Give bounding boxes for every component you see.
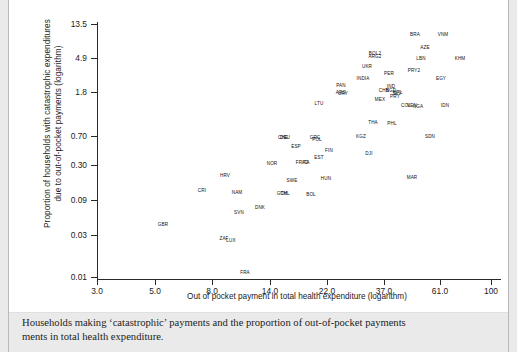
y-tick-label: 4.9: [47, 53, 87, 63]
data-point-label: DEU: [280, 135, 290, 140]
data-point-label: HUN: [321, 176, 331, 181]
data-point-label: FIN: [325, 148, 333, 153]
data-point-label: ITA: [302, 160, 309, 165]
data-point-label: DJI: [365, 151, 372, 156]
data-point-label: BOL: [306, 192, 316, 197]
data-point-label: MEX: [375, 97, 385, 102]
data-point-label: EST: [314, 155, 323, 160]
data-point-label: NAM: [232, 190, 243, 195]
data-point-label: PRY: [390, 94, 400, 99]
data-point-label: PER: [384, 71, 394, 76]
y-axis-title-line2: due to out-of-pocket payments (logarithm…: [53, 0, 64, 259]
y-tick-mark: [91, 235, 97, 236]
figure-caption: Households making ‘catastrophic’ payment…: [22, 316, 492, 343]
data-point-label: PRY2: [408, 68, 421, 73]
data-point-label: NGA: [413, 104, 423, 109]
data-point-label: FRA: [240, 270, 250, 275]
data-point-label: KHM: [455, 56, 466, 61]
y-tick-label: 0.03: [47, 230, 87, 240]
x-axis-title: Out of pocket payment in total health ex…: [97, 292, 497, 301]
y-tick-label: 0.09: [47, 195, 87, 205]
data-point-label: DNK: [255, 205, 265, 210]
data-point-label: LUX: [226, 238, 235, 243]
x-tick-mark: [97, 280, 98, 285]
data-point-label: EGY: [436, 76, 446, 81]
y-tick-mark: [91, 24, 97, 25]
data-point-label: BRA: [410, 32, 420, 37]
data-point-label: VNM: [438, 32, 449, 37]
data-point-label: URY: [338, 91, 348, 96]
data-point-label: THA: [368, 120, 378, 125]
data-point-label: KGZ: [356, 134, 366, 139]
y-tick-mark: [91, 58, 97, 59]
x-tick-mark: [327, 280, 328, 285]
x-tick-mark: [384, 280, 385, 285]
x-tick-mark: [155, 280, 156, 285]
y-tick-mark: [91, 277, 97, 278]
y-tick-mark: [91, 165, 97, 166]
data-point-label: PAN: [336, 83, 346, 88]
data-point-label: SDN: [425, 134, 435, 139]
data-point-label: SWE: [287, 178, 298, 183]
data-point-label: AZE: [420, 45, 429, 50]
data-point-label: ARG2: [368, 54, 381, 59]
x-tick-mark: [491, 280, 492, 285]
data-point-label: HRV: [220, 173, 230, 178]
y-tick-mark: [91, 200, 97, 201]
data-point-label: PHL: [387, 121, 396, 126]
data-point-label: SVN: [234, 210, 244, 215]
data-point-label: UKR: [362, 64, 372, 69]
x-tick-mark: [212, 280, 213, 285]
data-point-label: GBR: [158, 222, 168, 227]
caption-separator: [9, 312, 508, 313]
data-point-label: INDIA: [356, 76, 369, 81]
caption-line-2: ments in total health expenditure.: [22, 330, 492, 344]
data-point-label: IDN: [441, 103, 449, 108]
y-axis-title: Proportion of households with catastroph…: [43, 0, 64, 259]
data-point-label: POL: [312, 137, 322, 142]
data-point-label: ESP: [291, 144, 301, 149]
data-point-label: LBN: [416, 56, 425, 61]
y-tick-label: 0.70: [47, 131, 87, 141]
caption-line-1: Households making ‘catastrophic’ payment…: [22, 316, 492, 330]
data-point-label: MAR: [407, 175, 418, 180]
data-point-label: GTM: [277, 191, 288, 196]
y-tick-label: 0.01: [47, 272, 87, 282]
scatter-plot-panel: Proportion of households with catastroph…: [9, 0, 508, 312]
figure-page: Proportion of households with catastroph…: [0, 0, 517, 352]
y-axis-line: [97, 22, 98, 280]
y-tick-mark: [91, 92, 97, 93]
x-tick-mark: [270, 280, 271, 285]
x-tick-mark: [440, 280, 441, 285]
data-point-label: LTU: [315, 101, 324, 106]
y-tick-label: 13.5: [47, 19, 87, 29]
data-point-label: CRI: [198, 188, 206, 193]
y-tick-label: 0.30: [47, 160, 87, 170]
page-right-rule: [508, 0, 509, 352]
y-tick-mark: [91, 136, 97, 137]
y-tick-label: 1.8: [47, 87, 87, 97]
data-point-label: NOR: [267, 161, 278, 166]
